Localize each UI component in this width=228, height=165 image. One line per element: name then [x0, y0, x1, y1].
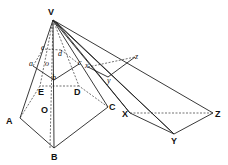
base-edges [20, 86, 108, 148]
label-Y: Y [171, 136, 177, 146]
label-A: A [6, 116, 13, 126]
label-y: y [106, 76, 111, 85]
lateral-edges [20, 20, 108, 148]
label-O: O [41, 105, 48, 115]
label-e: e [41, 43, 45, 52]
label-V: V [48, 7, 54, 17]
label-B: B [51, 152, 58, 162]
label-D: D [74, 87, 81, 97]
pyramid-diagram: V A B C D E O a b c d e o x y z X Y Z [0, 0, 228, 165]
label-a: a [29, 59, 33, 68]
projection-rays [53, 20, 213, 134]
section-pentagon [33, 49, 79, 80]
label-Z: Z [215, 109, 221, 119]
label-b: b [52, 73, 56, 82]
label-C: C [109, 102, 116, 112]
label-z: z [134, 52, 139, 61]
label-d: d [58, 49, 63, 58]
label-X: X [122, 109, 128, 119]
label-x: x [84, 61, 89, 70]
label-c: c [78, 58, 82, 67]
label-o: o [45, 59, 49, 68]
label-E: E [38, 87, 44, 97]
